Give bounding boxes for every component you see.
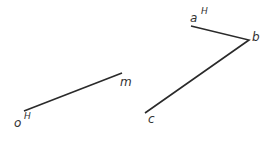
diagram-canvas: o H m a H b c: [0, 0, 276, 143]
label-m: m: [120, 75, 132, 89]
label-c: c: [148, 112, 155, 126]
line-o-m: [24, 73, 122, 111]
diagram-svg: o H m a H b c: [0, 0, 276, 143]
label-a-superscript: H: [201, 6, 208, 16]
label-a: a: [190, 11, 197, 25]
label-o-superscript: H: [24, 111, 31, 121]
polyline-a-b-c: [145, 26, 249, 113]
label-o: o: [14, 116, 21, 130]
label-b: b: [252, 30, 260, 44]
